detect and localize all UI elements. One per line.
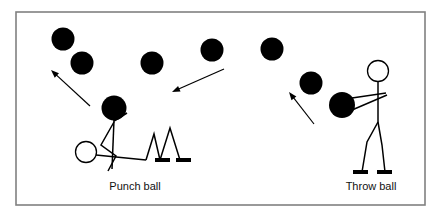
diagram-svg: Punch ball Throw ball [0, 0, 442, 220]
ball-marker [141, 52, 164, 75]
figure-foot [155, 158, 170, 162]
ball-marker [261, 38, 284, 61]
ball-marker [52, 28, 75, 51]
ball-marker [71, 52, 94, 75]
ball-marker [102, 96, 127, 121]
caption-throw-ball: Throw ball [346, 180, 397, 192]
caption-punch-ball: Punch ball [109, 180, 160, 192]
figure-foot [377, 170, 392, 174]
figure-foot [176, 158, 191, 162]
ball-marker [329, 92, 355, 118]
ball-marker [201, 39, 224, 62]
figure-foot [353, 170, 368, 174]
ball-marker [300, 72, 323, 95]
diagram-canvas: Punch ball Throw ball [0, 0, 442, 220]
